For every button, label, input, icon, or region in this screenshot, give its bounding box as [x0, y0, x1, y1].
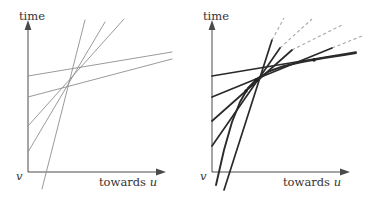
origin-label-v: v: [200, 169, 207, 183]
left-panel-canvas: time towards u v: [0, 0, 184, 207]
dash-extension-4: [272, 18, 284, 40]
line-3-medium: [28, 19, 124, 126]
line-4-steep: [28, 22, 105, 152]
line-2-shallow: [28, 59, 172, 97]
x-axis-label-text: towards: [99, 175, 150, 189]
dash-extension-3: [280, 19, 312, 48]
tangency-point-1: [244, 89, 247, 92]
x-axis-label: towards u: [99, 175, 157, 189]
right-panel: time towards u v: [184, 0, 368, 207]
tangent-solid-3: [212, 50, 292, 121]
left-panel: time towards u v: [0, 0, 184, 207]
tangent-solid-5: [224, 40, 272, 190]
x-axis-label-variable: u: [334, 175, 341, 189]
x-axis-label-variable: u: [150, 175, 157, 189]
x-axis-label-text: towards: [283, 175, 334, 189]
x-axis-label: towards u: [283, 175, 341, 189]
tangency-point-3: [312, 58, 315, 61]
tangent-solid-4: [212, 48, 280, 146]
origin-label-v: v: [16, 169, 23, 183]
line-1-shallow: [28, 52, 172, 76]
dash-extension-1: [332, 36, 362, 48]
line-5-steepest: [42, 20, 85, 189]
right-panel-canvas: time towards u v: [184, 0, 368, 207]
y-axis-label: time: [19, 9, 45, 23]
concave-envelope-curve: [216, 53, 356, 185]
two-panel-figure: time towards u v: [0, 0, 369, 207]
tangency-point-2: [254, 78, 257, 81]
x-axis-arrowhead: [156, 169, 166, 176]
y-axis-label: time: [203, 9, 229, 23]
dash-extension-2: [292, 25, 342, 50]
x-axis-arrowhead: [340, 169, 350, 176]
